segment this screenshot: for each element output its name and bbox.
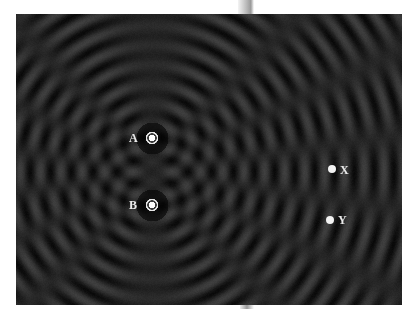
book-gutter-shadow xyxy=(238,0,254,14)
point-x-label: X xyxy=(340,164,349,176)
interference-pattern xyxy=(16,14,402,305)
book-gutter-shadow-bottom xyxy=(240,305,254,309)
point-x-marker xyxy=(328,165,336,173)
point-y-label: Y xyxy=(338,214,347,226)
source-a-label: A xyxy=(129,132,138,144)
point-y-marker xyxy=(326,216,334,224)
source-a-marker xyxy=(145,131,159,145)
interference-figure: A B X Y xyxy=(16,14,402,305)
source-b-label: B xyxy=(129,199,137,211)
source-b-marker xyxy=(145,198,159,212)
